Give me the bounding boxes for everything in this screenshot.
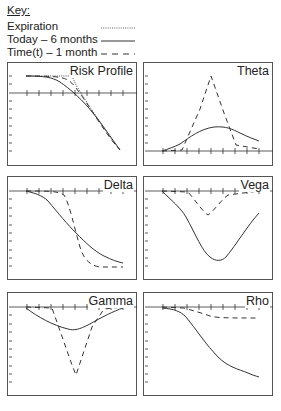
theta-plot [144, 63, 274, 167]
dashed-line-swatch [101, 46, 135, 59]
chart-delta: Delta [7, 176, 137, 280]
chart-gamma: Gamma [7, 292, 137, 396]
rho-plot [144, 293, 274, 397]
legend-label: Time(t) – 1 month [7, 46, 97, 58]
gamma-plot [8, 293, 138, 397]
chart-title: Theta [236, 64, 270, 78]
legend-item-time-t: Time(t) – 1 month [7, 46, 98, 59]
chart-title: Vega [239, 178, 270, 192]
legend-item-expiration: Expiration [7, 20, 98, 33]
solid-line-swatch [101, 33, 135, 46]
legend-title: Key: [7, 4, 98, 17]
delta-plot [8, 177, 138, 281]
legend-item-today: Today – 6 months [7, 33, 98, 46]
dotted-line-swatch [101, 20, 135, 33]
legend-label: Today – 6 months [7, 33, 98, 45]
chart-rho: Rho [143, 292, 273, 396]
chart-title: Gamma [88, 294, 134, 308]
chart-risk-profile: Risk Profile [7, 62, 137, 166]
chart-title: Rho [245, 294, 270, 308]
legend-label: Expiration [7, 20, 58, 32]
chart-vega: Vega [143, 176, 273, 280]
chart-title: Risk Profile [69, 64, 134, 78]
chart-theta: Theta [143, 62, 273, 166]
chart-legend: Key: Expiration Today – 6 months Time(t)… [7, 4, 98, 59]
risk-profile-plot [8, 63, 138, 167]
chart-title: Delta [103, 178, 134, 192]
vega-plot [144, 177, 274, 281]
